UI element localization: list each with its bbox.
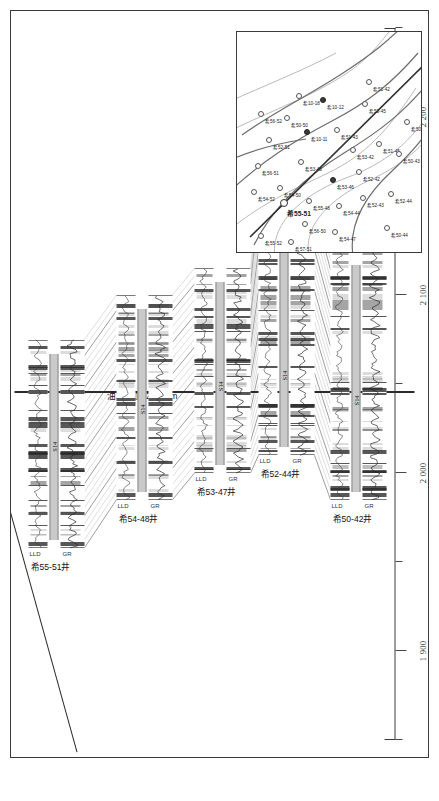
depth-tick-minor [395, 27, 402, 28]
map-well-label: 希52-51 [273, 144, 290, 150]
depth-tick-minor [395, 561, 402, 562]
well-panel[interactable]: 希55-51井LLDS14GR [26, 10, 88, 758]
map-well-symbol[interactable] [376, 141, 382, 147]
map-well-symbol[interactable] [277, 185, 283, 191]
tie-line [84, 484, 116, 532]
map-well-symbol[interactable] [362, 101, 368, 107]
map-well-label: 希52-44 [395, 198, 412, 204]
map-well-symbol[interactable] [306, 198, 312, 204]
depth-tick-label: 2 000 [417, 463, 427, 484]
tie-line [84, 327, 116, 372]
map-well-symbol[interactable] [334, 127, 340, 133]
tie-line [84, 421, 116, 468]
map-well-label: 希50-42 [411, 126, 422, 132]
tie-line [84, 334, 116, 379]
map-well-label: 希55-48 [313, 205, 330, 211]
map-well-label: 希53-45 [369, 108, 386, 114]
tie-line [84, 460, 116, 507]
tie-line [84, 437, 116, 484]
map-well-symbol[interactable] [356, 169, 362, 175]
map-well-symbol[interactable] [332, 229, 338, 235]
map-well-label: 希10-18 [303, 100, 320, 106]
map-well-symbol[interactable] [280, 199, 288, 207]
map-well-label: 希50-50 [291, 122, 308, 128]
tie-line [84, 295, 116, 340]
map-well-symbol[interactable] [266, 137, 272, 143]
tie-line [84, 342, 116, 387]
tie-line [84, 303, 116, 348]
figure-page: 油水界面-2 045 m 1 9002 0002 1002 200 埋深/m 希… [0, 0, 439, 801]
map-well-label: 希53-42 [357, 154, 374, 160]
map-well-symbol[interactable] [388, 191, 394, 197]
inset-map-rotor: 希55-52希57-51希55-51希54-50希54-52希56-51希56-… [236, 31, 422, 253]
map-well-label: 希56-52 [265, 118, 282, 124]
map-well-label: 希52-42 [363, 176, 380, 182]
map-well-label: 希55-51 [287, 208, 311, 218]
map-well-label: 希50-44 [391, 232, 408, 238]
map-well-symbol[interactable] [288, 239, 294, 245]
tie-line [84, 397, 116, 443]
map-well-label: 希51-42 [373, 86, 390, 92]
tie-line [84, 311, 116, 356]
map-well-label: 希54-52 [258, 196, 275, 202]
map-well-symbol[interactable] [255, 163, 261, 169]
map-well-symbol[interactable] [298, 159, 304, 165]
map-well-symbol[interactable] [258, 233, 264, 239]
depth-tick-major [395, 650, 406, 651]
map-well-symbol[interactable] [330, 177, 336, 183]
map-well-symbol[interactable] [258, 111, 264, 117]
depth-tick-minor [395, 739, 402, 740]
tie-line [84, 429, 116, 476]
depth-tick-minor [395, 383, 402, 384]
tie-line [84, 468, 116, 516]
map-well-symbol[interactable] [320, 97, 326, 103]
map-well-symbol[interactable] [302, 221, 308, 227]
map-well-label: 希55-52 [265, 240, 282, 246]
tie-line [84, 453, 116, 500]
map-well-symbol[interactable] [296, 93, 302, 99]
map-well-symbol[interactable] [304, 129, 310, 135]
gr-curve [26, 10, 88, 758]
map-well-label: 希10-11 [311, 136, 327, 142]
tie-line [84, 319, 116, 364]
depth-tick-major [395, 294, 406, 295]
map-well-symbol[interactable] [350, 147, 356, 153]
tie-line [84, 500, 116, 548]
figure-frame: 油水界面-2 045 m 1 9002 0002 1002 200 埋深/m 希… [10, 10, 429, 758]
map-well-label: 希10-12 [327, 104, 344, 110]
gr-curve [114, 10, 176, 758]
map-well-symbol[interactable] [284, 115, 290, 121]
map-well-label: 希54-44 [343, 210, 360, 216]
map-well-symbol[interactable] [396, 151, 402, 157]
tie-line [84, 405, 116, 451]
depth-tick-major [395, 472, 406, 473]
map-well-label: 希52-43 [367, 202, 384, 208]
map-well-symbol[interactable] [251, 189, 257, 195]
map-well-symbol[interactable] [336, 203, 342, 209]
map-well-label: 希57-51 [295, 246, 312, 252]
map-well-label: 希53-46 [337, 184, 354, 190]
tie-line [84, 413, 116, 460]
well-panel[interactable]: 希54-48井LLDS14GR [114, 10, 176, 758]
tie-line [84, 492, 116, 540]
tie-line [84, 445, 116, 492]
map-well-label: 希51-43 [341, 134, 358, 140]
depth-tick-label: 2 100 [417, 285, 427, 306]
inset-map-contours [236, 31, 422, 253]
map-well-label: 希50-43 [403, 158, 420, 164]
map-well-label: 希56-50 [309, 228, 326, 234]
map-well-label: 希54-47 [339, 236, 356, 242]
map-well-symbol[interactable] [384, 225, 390, 231]
inset-location-map: 希55-52希57-51希55-51希54-50希54-52希56-51希56-… [236, 31, 422, 253]
map-well-symbol[interactable] [404, 119, 410, 125]
map-well-symbol[interactable] [360, 195, 366, 201]
map-well-label: 希56-51 [262, 170, 279, 176]
map-well-symbol[interactable] [366, 79, 372, 85]
map-well-label: 希54-50 [284, 192, 301, 198]
map-well-label: 希53-48 [305, 166, 322, 172]
depth-tick-label: 1 900 [417, 641, 427, 662]
tie-line [84, 476, 116, 524]
